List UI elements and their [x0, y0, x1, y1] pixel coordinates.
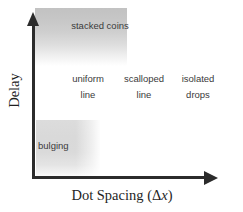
label-scalloped-line-line2: line: [113, 89, 175, 100]
label-scalloped-line: scalloped line: [113, 73, 175, 100]
delta-symbol: Δ: [152, 187, 161, 203]
label-bulging-line1: bulging: [38, 140, 69, 151]
label-stacked-coins: stacked coins: [60, 20, 140, 31]
label-stacked-coins-line1: stacked coins: [71, 20, 129, 31]
label-isolated-drops: isolated drops: [169, 73, 227, 100]
label-bulging: bulging: [38, 140, 90, 151]
label-scalloped-line-line1: scalloped: [124, 73, 164, 84]
x-axis-arrowhead-icon: [204, 171, 218, 185]
label-uniform-line-line1: uniform: [72, 73, 104, 84]
x-axis-line: [32, 176, 210, 179]
y-axis-line: [32, 24, 35, 179]
y-axis-title: Delay: [6, 64, 23, 118]
x-axis-title-close: ): [168, 187, 173, 203]
region-stacked-coins-shading: [35, 8, 127, 66]
x-axis-title: Dot Spacing (Δx): [34, 187, 210, 204]
x-axis-title-text: Dot Spacing (: [71, 187, 152, 203]
y-axis-arrowhead-icon: [27, 12, 39, 26]
regime-diagram: Delay Dot Spacing (Δx) stacked coins uni…: [0, 0, 243, 212]
label-uniform-line: uniform line: [58, 73, 118, 100]
label-isolated-drops-line1: isolated: [182, 73, 215, 84]
label-uniform-line-line2: line: [58, 89, 118, 100]
label-isolated-drops-line2: drops: [169, 89, 227, 100]
